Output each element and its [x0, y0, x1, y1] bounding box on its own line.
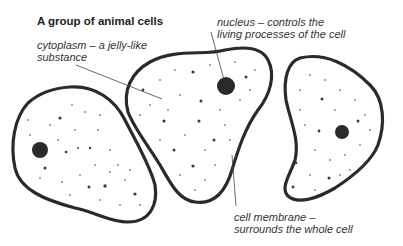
- cytoplasm-label-line1: cytoplasm – a jelly-like: [37, 39, 147, 51]
- cell-membrane-right: [285, 57, 383, 201]
- nucleus-label-line1: nucleus – controls the: [217, 16, 345, 28]
- nucleus-label: nucleus – controls the living processes …: [217, 16, 345, 40]
- diagram-title: A group of animal cells: [37, 15, 163, 27]
- right-cell: [285, 57, 383, 201]
- diagram-canvas: A group of animal cells cytoplasm – a je…: [0, 0, 403, 246]
- nucleus-right-icon: [335, 125, 349, 139]
- cytoplasm-label: cytoplasm – a jelly-like substance: [37, 39, 147, 63]
- nucleus-label-line2: living processes of the cell: [217, 28, 345, 40]
- membrane-label: cell membrane – surrounds the whole cell: [234, 211, 353, 235]
- membrane-label-line1: cell membrane –: [234, 211, 353, 223]
- cytoplasm-label-line2: substance: [37, 51, 147, 63]
- nucleus-middle-icon: [217, 77, 235, 95]
- membrane-label-line2: surrounds the whole cell: [234, 223, 353, 235]
- nucleus-left-icon: [32, 142, 48, 158]
